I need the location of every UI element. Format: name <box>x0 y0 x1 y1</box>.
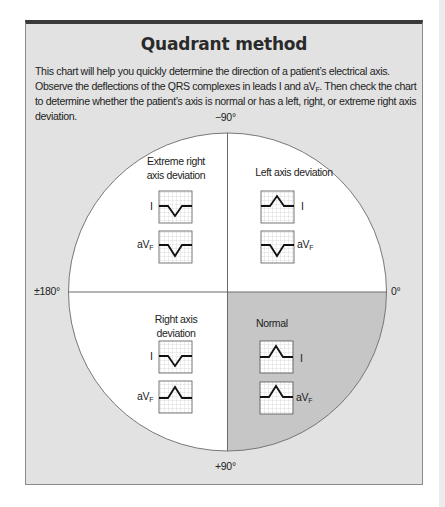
lead-label-subscript: F <box>149 396 153 403</box>
lead-label-avf-br: aVF <box>296 391 312 403</box>
quadrant-label-line: Right axis <box>145 312 207 326</box>
lead-label-avf-bl: aVF <box>137 390 153 402</box>
quadrant-label-line: Normal <box>256 316 298 330</box>
quadrant-label-line: axis deviation <box>138 168 214 182</box>
quadrant-label-line: Extreme right <box>138 154 214 168</box>
ecg-strip-bl-lead-avf <box>159 381 192 413</box>
lead-label-text: aV <box>137 238 149 250</box>
quadrant-label-normal: Normal <box>256 316 298 330</box>
lead-label-avf-tl: aVF <box>137 238 153 250</box>
ecg-strip-tl-lead-avf <box>159 231 192 263</box>
lead-label-text: aV <box>296 391 308 403</box>
quadrant-label-line: deviation <box>145 326 207 340</box>
lead-label-subscript: F <box>309 244 313 251</box>
ecg-strip-br-lead-i <box>260 341 293 373</box>
ecg-strip-bl-lead-i <box>159 341 192 373</box>
lead-label-i-bl: I <box>150 350 153 362</box>
lead-label-i-tl: I <box>150 200 153 212</box>
quadrant-label-line: Left axis deviation <box>248 165 340 179</box>
quadrant-label-right-axis: Right axis deviation <box>145 312 207 340</box>
lead-label-subscript: F <box>149 244 153 251</box>
lead-label-i-tr: I <box>301 200 304 212</box>
lead-label-i-br: I <box>300 352 303 364</box>
ecg-strip-br-lead-avf <box>260 382 293 414</box>
quadrant-label-left-axis: Left axis deviation <box>248 165 340 179</box>
lead-label-text: aV <box>137 390 149 402</box>
lead-label-text: aV <box>297 238 309 250</box>
ecg-strip-tr-lead-i <box>261 191 294 223</box>
lead-label-subscript: F <box>308 397 312 404</box>
ecg-strip-tr-lead-avf <box>261 231 294 263</box>
axis-circle-diagram <box>0 0 445 507</box>
ecg-strip-tl-lead-i <box>159 191 192 223</box>
quadrant-label-extreme-right: Extreme right axis deviation <box>138 154 214 182</box>
normal-quadrant-shading <box>228 292 387 451</box>
lead-label-avf-tr: aVF <box>297 238 313 250</box>
